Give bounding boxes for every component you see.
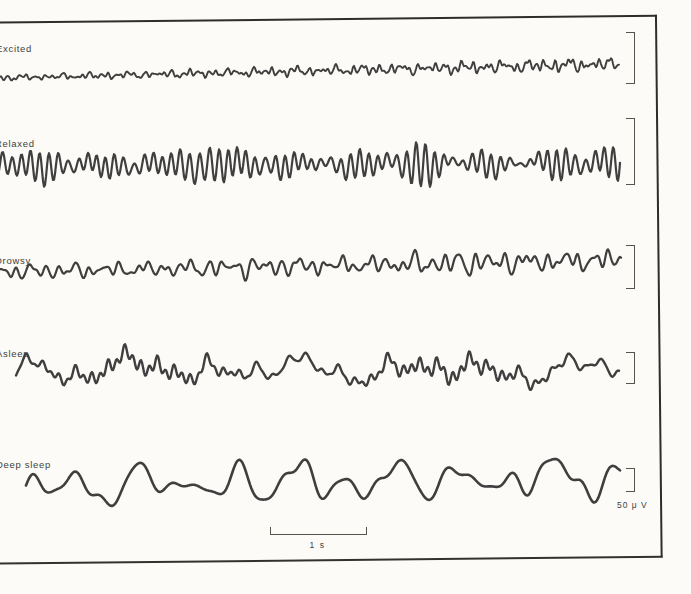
time-scale-label: 1 s <box>270 540 365 550</box>
state-label-deep-sleep: Deep sleep <box>0 459 51 470</box>
voltage-calibration-bracket-drowsy <box>626 245 635 289</box>
eeg-traces-canvas <box>0 0 691 594</box>
voltage-calibration-bracket-deep-sleep <box>626 468 635 492</box>
eeg-trace-asleep <box>16 344 619 390</box>
eeg-trace-deep-sleep <box>26 459 620 506</box>
eeg-trace-drowsy <box>0 249 621 280</box>
time-scale-bar <box>270 527 367 535</box>
state-label-excited: Excited <box>0 43 32 54</box>
voltage-scale-label: 50 μ V <box>617 500 648 510</box>
eeg-trace-excited <box>0 58 619 80</box>
voltage-calibration-bracket-asleep <box>626 352 635 384</box>
voltage-calibration-bracket-excited <box>626 32 635 84</box>
state-label-relaxed: Relaxed <box>0 138 35 149</box>
eeg-trace-relaxed <box>0 142 620 187</box>
state-label-drowsy: Drowsy <box>0 255 31 266</box>
eeg-figure: Excited Relaxed Drowsy Asleep Deep sleep… <box>0 0 691 594</box>
state-label-asleep: Asleep <box>0 348 29 359</box>
voltage-calibration-bracket-relaxed <box>626 118 635 185</box>
